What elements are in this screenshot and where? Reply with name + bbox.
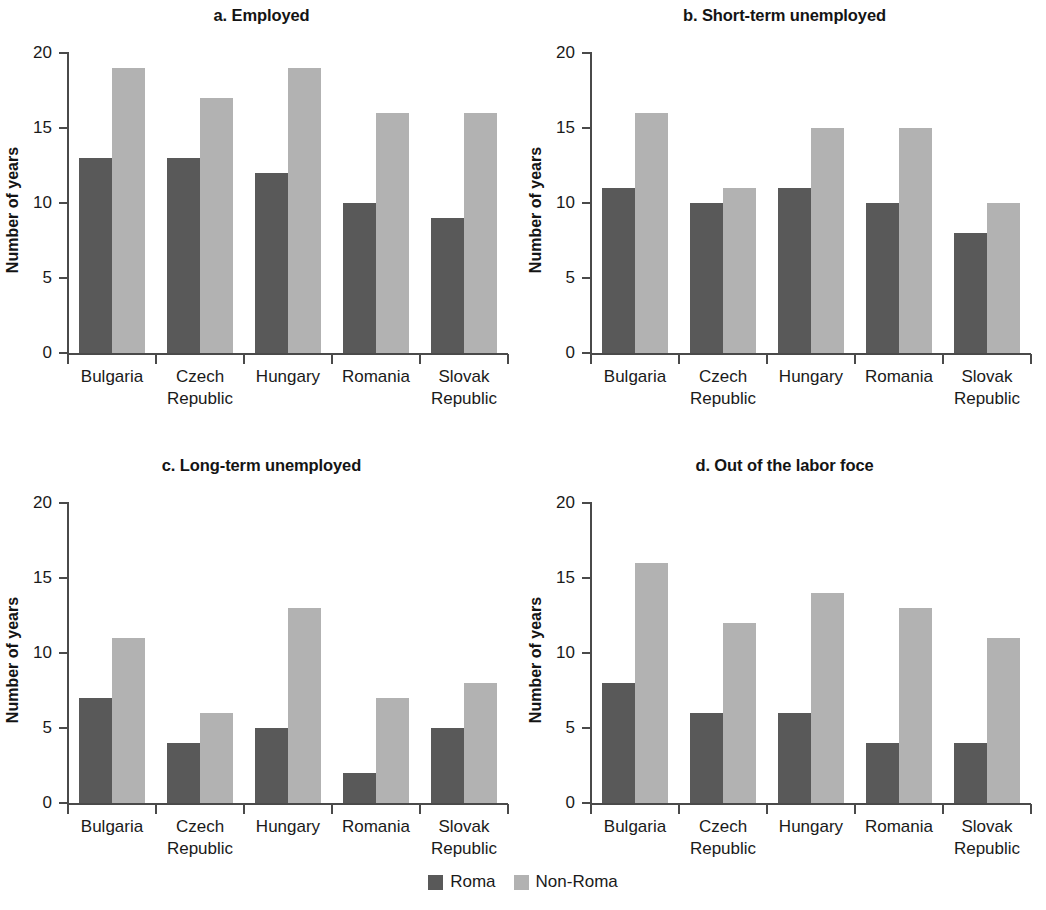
bar-non-roma-hungary xyxy=(811,593,844,803)
y-axis-tick xyxy=(59,502,68,504)
x-axis-label-line1: Slovak xyxy=(438,817,489,836)
x-axis-label-line2: Republic xyxy=(416,838,512,860)
bar-non-roma-romania xyxy=(376,698,409,803)
x-axis-tick xyxy=(419,804,421,814)
y-axis-tick xyxy=(59,52,68,54)
x-axis-label-line2: Republic xyxy=(152,388,248,410)
x-axis-label-line1: Romania xyxy=(342,367,410,386)
bar-roma-romania xyxy=(866,743,899,803)
bar-non-roma-czech-republic xyxy=(200,98,233,353)
y-axis-tick xyxy=(59,277,68,279)
x-axis-label-hungary: Hungary xyxy=(240,366,336,388)
x-axis-tick xyxy=(331,804,333,814)
panel-a-title: a. Employed xyxy=(0,6,523,25)
legend-label: Roma xyxy=(450,872,495,892)
x-axis-tick xyxy=(67,804,69,814)
x-axis-label-line1: Hungary xyxy=(779,367,843,386)
x-axis-label-line1: Romania xyxy=(342,817,410,836)
bar-roma-romania xyxy=(866,203,899,353)
x-axis-tick xyxy=(942,804,944,814)
y-axis-tick-label: 10 xyxy=(523,193,575,213)
y-axis-tick-label: 15 xyxy=(0,118,52,138)
panel-c: c. Long-term unemployed Number of years … xyxy=(0,450,523,900)
y-axis-tick xyxy=(59,652,68,654)
x-axis-label-line1: Romania xyxy=(865,817,933,836)
x-axis-label-slovak-republic: SlovakRepublic xyxy=(416,366,512,410)
y-axis-tick xyxy=(582,277,591,279)
x-axis-label-line1: Hungary xyxy=(779,817,843,836)
y-axis-tick-label: 10 xyxy=(0,193,52,213)
x-axis-label-bulgaria: Bulgaria xyxy=(587,816,683,838)
panel-b-plot-area xyxy=(591,53,1031,353)
bar-roma-hungary xyxy=(778,713,811,803)
y-axis-tick-label: 20 xyxy=(523,493,575,513)
y-axis-tick xyxy=(582,52,591,54)
y-axis-tick-label: 20 xyxy=(0,43,52,63)
bar-roma-slovak-republic xyxy=(431,218,464,353)
bar-non-roma-bulgaria xyxy=(635,113,668,353)
x-axis-label-line2: Republic xyxy=(416,388,512,410)
y-axis-tick xyxy=(582,502,591,504)
y-axis-tick-label: 0 xyxy=(523,343,575,363)
panel-b: b. Short-term unemployed Number of years… xyxy=(523,0,1046,450)
bar-non-roma-czech-republic xyxy=(723,188,756,353)
x-axis-line xyxy=(67,803,508,805)
y-axis-tick-label: 5 xyxy=(0,268,52,288)
bar-roma-bulgaria xyxy=(602,188,635,353)
x-axis-label-romania: Romania xyxy=(851,816,947,838)
y-axis-tick-label: 10 xyxy=(0,643,52,663)
bar-non-roma-romania xyxy=(899,128,932,353)
bar-roma-hungary xyxy=(778,188,811,353)
bar-non-roma-hungary xyxy=(288,68,321,353)
x-axis-tick xyxy=(590,354,592,364)
bar-roma-slovak-republic xyxy=(954,233,987,353)
bar-non-roma-bulgaria xyxy=(112,68,145,353)
x-axis-label-line1: Czech xyxy=(699,367,747,386)
x-axis-tick xyxy=(243,354,245,364)
x-axis-label-line1: Czech xyxy=(699,817,747,836)
x-axis-line xyxy=(590,353,1031,355)
x-axis-tick xyxy=(854,354,856,364)
x-axis-tick xyxy=(243,804,245,814)
panel-c-title: c. Long-term unemployed xyxy=(0,456,523,475)
x-axis-tick xyxy=(942,354,944,364)
chart-legend: RomaNon-Roma xyxy=(0,872,1046,892)
x-axis-line xyxy=(67,353,508,355)
bar-non-roma-slovak-republic xyxy=(987,638,1020,803)
x-axis-tick xyxy=(1030,804,1032,814)
bar-roma-bulgaria xyxy=(79,698,112,803)
x-axis-label-hungary: Hungary xyxy=(763,366,859,388)
bar-roma-czech-republic xyxy=(690,713,723,803)
y-axis-tick xyxy=(59,577,68,579)
x-axis-label-czech-republic: CzechRepublic xyxy=(675,366,771,410)
x-axis-label-line1: Bulgaria xyxy=(81,817,143,836)
x-axis-label-bulgaria: Bulgaria xyxy=(64,366,160,388)
x-axis-tick xyxy=(590,804,592,814)
x-axis-label-slovak-republic: SlovakRepublic xyxy=(939,366,1035,410)
x-axis-label-line1: Slovak xyxy=(961,817,1012,836)
bar-roma-romania xyxy=(343,203,376,353)
panel-d: d. Out of the labor foce Number of years… xyxy=(523,450,1046,900)
x-axis-labels: BulgariaCzechRepublicHungaryRomaniaSlova… xyxy=(68,366,508,436)
bar-roma-romania xyxy=(343,773,376,803)
x-axis-tick xyxy=(155,354,157,364)
bar-roma-czech-republic xyxy=(690,203,723,353)
x-axis-label-slovak-republic: SlovakRepublic xyxy=(939,816,1035,860)
x-axis-tick xyxy=(507,804,509,814)
x-axis-label-line1: Romania xyxy=(865,367,933,386)
bar-non-roma-czech-republic xyxy=(200,713,233,803)
x-axis-label-czech-republic: CzechRepublic xyxy=(152,366,248,410)
y-axis-tick-label: 15 xyxy=(523,568,575,588)
y-axis-tick xyxy=(59,127,68,129)
y-axis-tick-label: 10 xyxy=(523,643,575,663)
legend-swatch-icon xyxy=(428,875,443,890)
y-axis-tick-label: 20 xyxy=(0,493,52,513)
x-axis-label-romania: Romania xyxy=(328,816,424,838)
x-axis-tick xyxy=(67,354,69,364)
y-axis-tick xyxy=(59,202,68,204)
x-axis-tick xyxy=(854,804,856,814)
panel-a-plot-area xyxy=(68,53,508,353)
panel-d-plot-area xyxy=(591,503,1031,803)
bar-non-roma-czech-republic xyxy=(723,623,756,803)
y-axis-tick xyxy=(582,727,591,729)
